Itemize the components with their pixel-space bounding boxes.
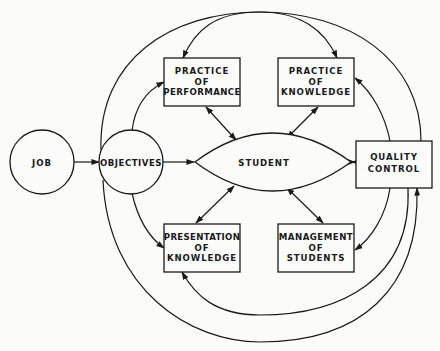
edge-objectives-to-practice-performance [132,82,164,131]
node-practice-performance-line1: PRACTICE [175,66,229,76]
edge-objectives-to-presentation-knowledge [132,193,164,248]
edge-student-management-students [287,188,323,223]
node-presentation-knowledge-line1: PRESENTATION [164,232,240,242]
node-quality-control: QUALITY CONTROL [356,141,432,188]
node-objectives: OBJECTIVES [99,130,163,194]
node-student: STUDENT [195,133,351,191]
node-management-students-line1: MANAGEMENT [279,232,353,242]
edge-student-practice-knowledge [287,107,318,138]
node-quality-control-label-line1: QUALITY [370,152,418,162]
node-quality-control-label-line2: CONTROL [368,164,420,174]
node-practice-knowledge-line2: OF [309,77,324,87]
edge-quality-control-to-management-students [355,188,390,250]
node-practice-of-knowledge: PRACTICE OF KNOWLEDGE [278,58,354,106]
edge-student-presentation-knowledge [196,186,234,223]
node-practice-performance-line3: PERFORMANCE [163,87,241,97]
edge-objectives-to-quality-control [103,180,417,342]
node-practice-performance-line2: OF [195,77,210,87]
node-management-of-students: MANAGEMENT OF STUDENTS [278,224,354,272]
node-objectives-label: OBJECTIVES [100,158,162,168]
node-practice-knowledge-line1: PRACTICE [289,66,343,76]
node-job: JOB [10,130,74,194]
edge-quality-control-to-practice-knowledge [355,78,390,141]
node-job-label: JOB [31,158,52,168]
node-practice-of-performance: PRACTICE OF PERFORMANCE [163,58,241,106]
node-management-students-line3: STUDENTS [287,253,345,263]
node-student-label: STUDENT [238,158,289,168]
node-practice-knowledge-line3: KNOWLEDGE [281,87,351,97]
node-presentation-knowledge-line3: KNOWLEDGE [167,253,237,263]
node-presentation-knowledge-line2: OF [195,243,210,253]
edge-student-practice-performance [206,107,236,140]
node-presentation-of-knowledge: PRESENTATION OF KNOWLEDGE [164,224,240,272]
node-management-students-line2: OF [309,243,324,253]
instructional-system-diagram: JOB OBJECTIVES STUDENT QUALITY CONTROL P… [0,0,440,351]
